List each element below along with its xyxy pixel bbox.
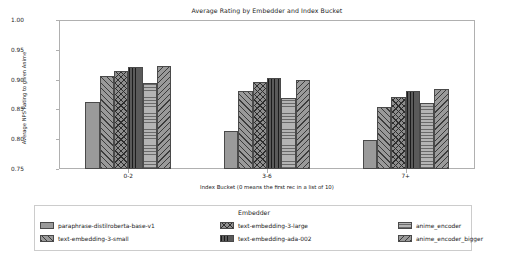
y-tick-label: 0.95 [0, 47, 24, 53]
legend-item: text-embedding-3-large [220, 222, 398, 229]
legend-swatch [220, 235, 234, 242]
legend-item: text-embedding-3-small [40, 235, 220, 242]
legend-item: paraphrase-distilroberta-base-v1 [40, 222, 220, 229]
legend-label: text-embedding-ada-002 [238, 236, 312, 242]
bar [363, 140, 377, 169]
bar [85, 102, 99, 169]
x-axis-label: Index Bucket (0 means the first rec in a… [59, 184, 475, 190]
bar [434, 89, 448, 169]
y-tick-label: 0.75 [0, 166, 24, 172]
bar [377, 107, 391, 169]
legend-label: anime_encoder [416, 223, 461, 229]
bar [157, 66, 171, 169]
y-axis-label: Average NPS Rating to given Anime [21, 18, 27, 178]
legend-label: anime_encoder_bigger [416, 236, 483, 242]
bar [143, 83, 157, 169]
bar [406, 91, 420, 169]
chart-figure: Average Rating by Embedder and Index Buc… [0, 0, 505, 256]
bar [238, 91, 252, 169]
y-tick-label: 0.80 [0, 136, 24, 142]
bar-series-container [59, 20, 475, 169]
y-tick-mark [56, 169, 60, 170]
y-tick-label: 0.90 [0, 77, 24, 83]
chart-title: Average Rating by Embedder and Index Buc… [59, 7, 475, 14]
bar [114, 71, 128, 169]
bar [224, 131, 238, 169]
legend-title: Embedder [35, 209, 473, 216]
x-tick-mark [128, 169, 129, 173]
legend-swatch [40, 235, 54, 242]
legend-label: text-embedding-3-small [58, 236, 129, 242]
bar [391, 97, 405, 169]
legend-label: text-embedding-3-large [238, 223, 308, 229]
bar [128, 67, 142, 169]
legend-swatch [40, 222, 54, 229]
bar [296, 80, 310, 169]
x-tick-label: 7+ [376, 173, 436, 179]
legend-swatch [398, 235, 412, 242]
bar [100, 76, 114, 169]
legend-swatch [220, 222, 234, 229]
x-tick-label: 0-2 [98, 173, 158, 179]
bar [420, 103, 434, 169]
bar [253, 82, 267, 169]
y-tick-label: 1.00 [0, 17, 24, 23]
legend-label: paraphrase-distilroberta-base-v1 [58, 223, 155, 229]
bar [281, 98, 295, 169]
legend-item: text-embedding-ada-002 [220, 235, 398, 242]
x-tick-mark [406, 169, 407, 173]
legend-item: anime_encoder [398, 222, 468, 229]
x-tick-label: 3-6 [237, 173, 297, 179]
legend-item: anime_encoder_bigger [398, 235, 468, 242]
x-tick-mark [267, 169, 268, 173]
legend: Embedder paraphrase-distilroberta-base-v… [34, 205, 472, 251]
legend-swatch [398, 222, 412, 229]
y-tick-label: 0.85 [0, 106, 24, 112]
bar [267, 78, 281, 169]
legend-items: paraphrase-distilroberta-base-v1text-emb… [40, 219, 468, 245]
